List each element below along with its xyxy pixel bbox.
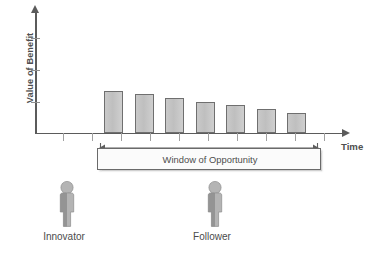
follower-label: Follower xyxy=(157,231,267,242)
bar-4 xyxy=(196,102,215,133)
bar-6 xyxy=(257,109,276,133)
y-axis-arrow-icon xyxy=(31,5,39,13)
follower-person-icon xyxy=(200,180,230,228)
x-axis-tick xyxy=(179,133,180,141)
bar-3 xyxy=(165,98,184,133)
window-of-opportunity-diagram: Value of Benefit Time Window of Opportun… xyxy=(0,0,382,253)
window-of-opportunity-label: Window of Opportunity xyxy=(98,149,322,171)
x-axis-title: Time xyxy=(341,141,363,152)
x-axis-tick xyxy=(63,133,64,141)
innovator-person-icon xyxy=(52,180,82,228)
x-axis-tick xyxy=(121,133,122,141)
x-axis-tick xyxy=(237,133,238,141)
x-axis-tick xyxy=(208,133,209,141)
y-axis-line xyxy=(35,12,37,134)
bar-2 xyxy=(135,94,154,133)
bar-1 xyxy=(104,91,123,133)
x-axis-tick xyxy=(266,133,267,141)
innovator-label: Innovator xyxy=(9,231,119,242)
y-axis-title: Value of Benefit xyxy=(25,13,35,123)
window-of-opportunity-box: Window of Opportunity xyxy=(97,148,321,170)
bar-5 xyxy=(226,105,245,133)
bar-7 xyxy=(287,113,306,133)
x-axis-tick xyxy=(295,133,296,141)
x-axis-tick xyxy=(92,133,93,141)
x-axis-arrow-icon xyxy=(342,129,350,137)
x-axis-tick xyxy=(324,133,325,141)
x-axis-tick xyxy=(150,133,151,141)
